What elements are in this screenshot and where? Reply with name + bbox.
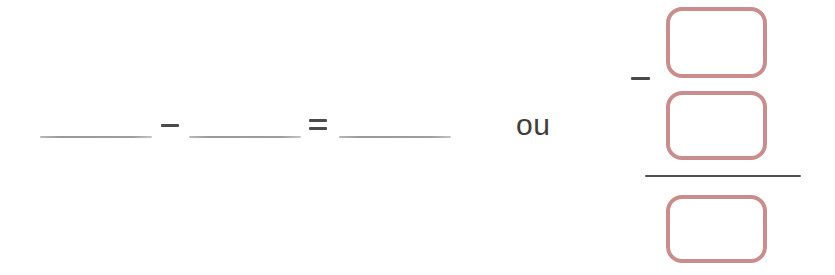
answer-blank-2[interactable] xyxy=(189,136,301,138)
fraction-bar xyxy=(645,175,801,177)
answer-box-denominator[interactable] xyxy=(666,195,767,263)
answer-blank-1[interactable] xyxy=(40,136,152,138)
worksheet-canvas: ou xyxy=(0,0,835,275)
answer-blank-3[interactable] xyxy=(339,136,451,138)
answer-box-numerator-2[interactable] xyxy=(666,91,767,160)
equals-operator-icon xyxy=(309,119,327,130)
minus-operator-icon xyxy=(161,124,179,127)
conjunction-label: ou xyxy=(516,110,550,140)
minus-operator-icon xyxy=(631,77,650,80)
answer-box-numerator-1[interactable] xyxy=(666,7,767,78)
